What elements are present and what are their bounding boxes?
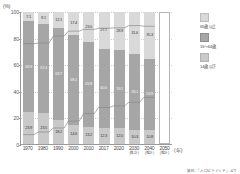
- bar-value-label: 53.9: [146, 92, 153, 96]
- bar-value-label: 23.0: [85, 25, 92, 29]
- bar-value-label: 12.0: [116, 134, 123, 138]
- bar-value-label: 17.4: [70, 21, 77, 25]
- bar-value-label: 23.9: [25, 126, 32, 130]
- bar-slot: 35.353.910.8: [142, 12, 157, 144]
- bar-value-label: 10.8: [146, 135, 153, 139]
- bar-slot: 7.168.923.9: [21, 12, 36, 144]
- bar-segment: 12.3: [99, 128, 110, 144]
- x-axis-label: 2000: [66, 146, 81, 166]
- x-axis-unit-label: (年): [174, 146, 182, 153]
- x-axis-estimate-note: (推計): [126, 152, 141, 156]
- source-note: 資料：「人口ピラミッド」より: [187, 168, 237, 173]
- bar-value-label: 23.5: [40, 126, 47, 130]
- bar-value-label: 60.0: [101, 86, 108, 90]
- bar-segment: 9.1: [38, 12, 49, 24]
- bar-segment: 60.0: [99, 49, 110, 128]
- stacked-bar[interactable]: 35.353.910.8: [144, 12, 155, 144]
- bar-segment: 68.1: [68, 35, 79, 125]
- x-axis-year: 1980: [35, 146, 50, 152]
- x-axis-estimate-note: (推計): [142, 152, 157, 156]
- bar-slot: 28.959.112.0: [112, 12, 127, 144]
- bar-segment: 31.6: [129, 12, 140, 54]
- bar-slot: 17.468.114.6: [66, 12, 81, 144]
- stacked-bar[interactable]: 7.168.923.9: [23, 12, 34, 144]
- bar-value-label: 31.6: [131, 31, 138, 35]
- stacked-bar[interactable]: 31.658.110.3: [129, 12, 140, 144]
- bar-segment: 28.9: [114, 12, 125, 50]
- bar-value-label: 63.8: [85, 82, 92, 86]
- bar-segment: 12.0: [114, 128, 125, 144]
- legend-swatch: [200, 53, 209, 62]
- bar-segment: 27.7: [99, 12, 110, 49]
- stacked-bar[interactable]: 9.167.423.5: [38, 12, 49, 144]
- x-axis-label: 2050(推計): [157, 146, 172, 166]
- bar-segment: 10.3: [129, 130, 140, 144]
- legend-swatch: [200, 33, 209, 42]
- bar-slot: 9.167.423.5: [36, 12, 51, 144]
- bar-segment: 67.4: [38, 24, 49, 113]
- bar-value-label: 67.4: [40, 66, 47, 70]
- bar-segment: 12.1: [53, 12, 64, 28]
- legend-item[interactable]: 15～64歳: [200, 33, 240, 49]
- bar-segment: 59.1: [114, 50, 125, 128]
- bar-value-label: 10.3: [131, 135, 138, 139]
- bar-segment: 23.5: [38, 113, 49, 144]
- stacked-bar[interactable]: 17.468.114.6: [68, 12, 79, 144]
- x-axis-labels: 19701980199020002010201720202030(推計)2040…: [20, 146, 172, 166]
- bar-segment: 13.2: [83, 127, 94, 144]
- bar-segment: 10.8: [144, 130, 155, 144]
- chart-container: (%) 020406080100 7.168.923.99.167.423.51…: [0, 0, 240, 174]
- x-axis-estimate-note: (推計): [157, 152, 172, 156]
- stacked-bar[interactable]: 12.169.718.2: [53, 12, 64, 144]
- legend-item[interactable]: 14歳 以下: [200, 53, 240, 69]
- x-axis-year: 2010: [81, 146, 96, 152]
- x-axis-label: 2030(推計): [126, 146, 141, 166]
- bar-segment: 58.1: [129, 54, 140, 131]
- bar-segment: 23.0: [83, 12, 94, 42]
- x-axis-label: 2020: [111, 146, 126, 166]
- bar-value-label: 28.9: [116, 29, 123, 33]
- bar-segment: 63.8: [83, 42, 94, 126]
- bar-value-label: 12.1: [55, 18, 62, 22]
- x-axis-label: 2010: [81, 146, 96, 166]
- x-axis-year: 2000: [66, 146, 81, 152]
- bar-segment: 53.9: [144, 59, 155, 130]
- chart-legend: 65歳 以上15～64歳14歳 以下: [200, 13, 240, 73]
- x-axis-label: 1980: [35, 146, 50, 166]
- x-axis-label: 1970: [20, 146, 35, 166]
- bar-value-label: 14.6: [70, 132, 77, 136]
- bar-value-label: 9.1: [41, 16, 46, 20]
- bar-value-label: 68.9: [25, 65, 32, 69]
- x-axis-year: 1970: [20, 146, 35, 152]
- y-axis-tick-label: 100: [11, 9, 19, 15]
- bar-segment: 18.2: [53, 120, 64, 144]
- bar-value-label: 58.1: [131, 90, 138, 94]
- bar-segment: 14.6: [68, 125, 79, 144]
- bar-slot: [157, 12, 172, 144]
- bar-segment: 68.9: [23, 21, 34, 112]
- bar-value-label: 13.2: [85, 133, 92, 137]
- x-axis-label: 2017: [96, 146, 111, 166]
- x-axis-year: 2020: [111, 146, 126, 152]
- plot-area: 020406080100 7.168.923.99.167.423.512.16…: [20, 12, 172, 145]
- x-axis-year: 2017: [96, 146, 111, 152]
- bar-slot: 31.658.110.3: [127, 12, 142, 144]
- bar-slot: 23.063.813.2: [81, 12, 96, 144]
- legend-label: 65歳 以上: [200, 23, 216, 29]
- bar-value-label: 27.7: [101, 28, 108, 32]
- bar-segment: 17.4: [68, 12, 79, 35]
- x-axis-label: 2040(推計): [142, 146, 157, 166]
- bar-segment: 23.9: [23, 112, 34, 144]
- bar-value-label: 18.2: [55, 130, 62, 134]
- legend-swatch: [200, 13, 209, 22]
- bar-value-label: 12.3: [101, 134, 108, 138]
- stacked-bar[interactable]: 23.063.813.2: [83, 12, 94, 144]
- bar-value-label: 35.3: [146, 33, 153, 37]
- bar-slot: 27.760.012.3: [96, 12, 111, 144]
- stacked-bar[interactable]: 28.959.112.0: [114, 12, 125, 144]
- legend-item[interactable]: 65歳 以上: [200, 13, 240, 29]
- y-axis-unit-label: (%): [3, 3, 10, 9]
- stacked-bar[interactable]: 27.760.012.3: [99, 12, 110, 144]
- bar-segment: 69.7: [53, 28, 64, 120]
- empty-bar-placeholder: [159, 12, 170, 144]
